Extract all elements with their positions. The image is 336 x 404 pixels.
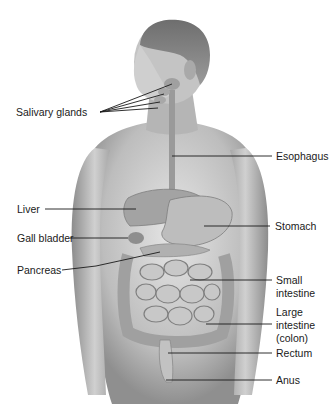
label-esophagus: Esophagus [276,150,329,162]
gall-bladder-organ [128,232,144,244]
label-liver: Liver [17,203,40,215]
label-large-intestine-line1: Large [276,306,303,318]
label-small-intestine-line1: Small [276,274,302,286]
label-large-intestine-line2: intestine [276,319,315,331]
ear [184,60,196,80]
label-small-intestine-line2: intestine [276,287,315,299]
label-pancreas: Pancreas [17,264,61,276]
label-large-intestine-line3: (colon) [276,332,308,344]
label-anus: Anus [276,374,300,386]
label-salivary-glands: Salivary glands [16,106,87,118]
label-stomach: Stomach [275,220,316,232]
digestive-system-diagram: Salivary glands Esophagus Liver Gall bla… [0,0,336,404]
small-intestine-organ [136,260,220,325]
label-gall-bladder: Gall bladder [17,232,74,244]
label-rectum: Rectum [276,347,312,359]
